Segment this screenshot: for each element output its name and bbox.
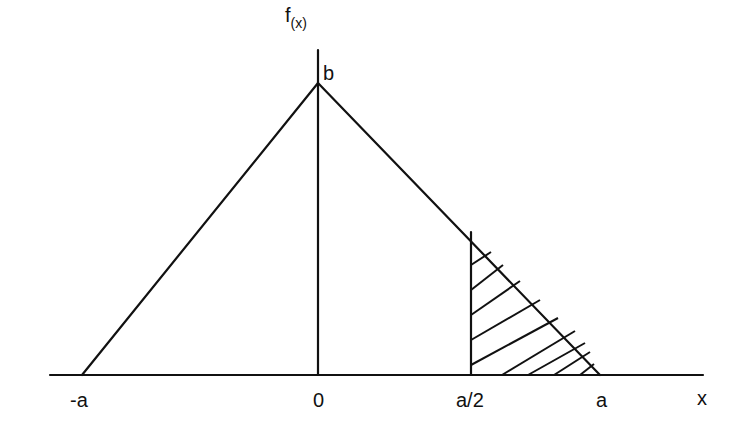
y-axis-label: f(x) xyxy=(285,4,307,31)
tick-a: a xyxy=(596,389,608,411)
shaded-region-hatching xyxy=(471,252,594,375)
peak-label: b xyxy=(323,62,334,84)
x-axis-label: x xyxy=(697,387,707,409)
tick-zero: 0 xyxy=(313,389,324,411)
triangular-distribution-diagram: f(x) b -a 0 a/2 a x xyxy=(0,0,741,440)
tick-neg-a: -a xyxy=(70,389,89,411)
tick-half-a: a/2 xyxy=(456,389,484,411)
left-edge xyxy=(82,83,318,375)
right-edge xyxy=(318,83,600,375)
